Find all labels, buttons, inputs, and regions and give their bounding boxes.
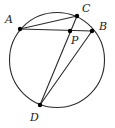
circle-outline xyxy=(10,13,105,108)
geometry-figure: A C B P D xyxy=(0,0,115,128)
point-label-a: A xyxy=(5,14,13,25)
point-label-b: B xyxy=(99,21,107,32)
point-p-dot xyxy=(68,29,72,33)
point-label-p: P xyxy=(71,35,78,46)
point-label-c: C xyxy=(82,3,90,14)
point-label-d: D xyxy=(30,112,39,123)
chord-ab xyxy=(20,29,92,31)
point-a-dot xyxy=(18,27,22,31)
geometry-canvas xyxy=(0,0,115,128)
point-c-dot xyxy=(75,14,79,18)
point-b-dot xyxy=(90,29,94,33)
point-d-dot xyxy=(38,103,42,107)
